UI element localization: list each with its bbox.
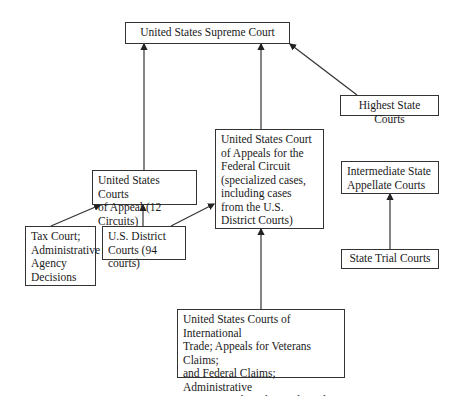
international-trade-box: United States Courts of International Tr…	[177, 309, 345, 378]
arrow-tax-to-appeal	[51, 205, 100, 226]
arrow-district-to-fedcircuit	[171, 204, 214, 226]
intermediate-state-courts-box: Intermediate State Appellate Courts	[341, 161, 439, 194]
tax-court-box: Tax Court; Administrative Agency Decisio…	[25, 226, 96, 286]
arrow-higheststate-to-supreme	[290, 44, 357, 95]
federal-circuit-box: United States Court of Appeals for the F…	[215, 129, 324, 229]
highest-state-courts-box: Highest State Courts	[340, 95, 439, 116]
supreme-court-box: United States Supreme Court	[125, 22, 290, 44]
courts-of-appeal-box: United States Courts of Appeal (12 Circu…	[92, 170, 197, 205]
state-trial-courts-box: State Trial Courts	[341, 249, 439, 269]
district-courts-box: U.S. District Courts (94 courts)	[102, 226, 186, 260]
